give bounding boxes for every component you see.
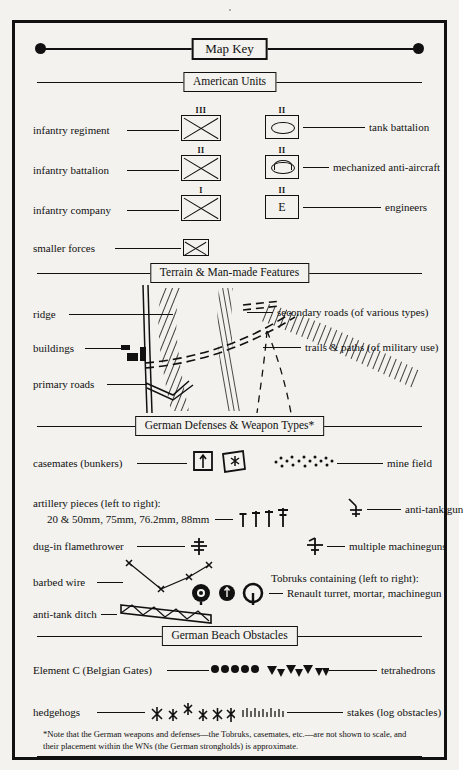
leader-line: [269, 593, 283, 594]
label-artillery-line1: artillery pieces (left to right):: [33, 496, 161, 510]
echelon-marker: III: [196, 107, 207, 115]
label-primary-roads: primary roads: [33, 377, 94, 391]
building-block: [140, 347, 146, 361]
echelon-marker: I: [199, 187, 203, 195]
stakes-symbols: [241, 705, 287, 721]
leader-line: [97, 712, 145, 713]
leader-line: [303, 127, 365, 128]
belgian-gate-dot: [211, 665, 219, 673]
leader-line: [303, 207, 381, 208]
infantry-cross-icon: [182, 156, 220, 180]
trail-path-b: [267, 331, 291, 413]
header-dot-right: [413, 43, 424, 54]
hedgehog-svg: [149, 701, 235, 725]
label-tetrahedrons: tetrahedrons: [381, 663, 435, 677]
label-machineguns: multiple machineguns: [349, 539, 446, 553]
infantry-cross-icon: [182, 116, 220, 140]
symbol-tank-battalion: II: [265, 115, 299, 139]
machineguns-svg: [305, 535, 325, 557]
leader-line: [327, 546, 345, 547]
label-tobruks-line1: Tobruks containing (left to right):: [271, 571, 419, 585]
label-buildings: buildings: [33, 341, 74, 355]
label-casemates: casemates (bunkers): [33, 456, 123, 470]
engineer-letter-icon: E: [266, 196, 298, 218]
footnote-text: *Note that the German weapons and defens…: [43, 729, 420, 752]
anti-tank-ditch-symbol: [119, 599, 215, 625]
label-infantry-company: infantry company: [33, 203, 111, 217]
leader-line: [115, 248, 181, 249]
building-block: [121, 345, 130, 350]
section-header-american-units: American Units: [15, 72, 444, 92]
leader-line: [127, 130, 179, 131]
hedgehog-symbols: [149, 701, 235, 725]
mine-field-svg: [273, 453, 335, 471]
leader-line: [127, 170, 179, 171]
label-infantry-battalion: infantry battalion: [33, 163, 109, 177]
artillery-svg: [237, 505, 293, 529]
casemate-symbols: [191, 448, 247, 476]
anti-tank-ditch-svg: [119, 599, 215, 625]
secondary-road-spur-a: [243, 301, 281, 305]
section-header-beach-obstacles: German Beach Obstacles: [15, 626, 444, 646]
section-title-map-key: Map Key: [191, 38, 268, 60]
stakes-svg: [241, 705, 287, 721]
echelon-marker: II: [278, 147, 285, 155]
label-mine-field: mine field: [387, 456, 432, 470]
leader-line: [167, 670, 209, 671]
tetrahedron-svg: [267, 663, 329, 679]
leader-line: [97, 582, 123, 583]
tank-oval-icon: [271, 122, 295, 135]
label-artillery-line2: 20 & 50mm, 75mm, 76.2mm, 88mm: [47, 512, 209, 526]
machineguns-symbol: [305, 535, 325, 557]
infantry-cross-icon: [182, 196, 220, 220]
belgian-gate-dot: [241, 665, 249, 673]
label-tobruks-line2: Renault turret, mortar, machinegun: [287, 586, 441, 600]
anti-tank-gun-symbol: [345, 497, 367, 519]
label-flamethrower: dug-in flamethrower: [33, 539, 124, 553]
label-engineers: engineers: [385, 200, 427, 214]
symbol-infantry-regiment: III: [181, 115, 221, 141]
label-stakes: stakes (log obstacles): [347, 705, 441, 719]
symbol-smaller-forces: [183, 239, 209, 256]
flamethrower-svg: [189, 535, 209, 557]
element-c-symbols: [211, 665, 259, 673]
artillery-symbols: [237, 505, 293, 529]
belgian-gate-dot: [231, 665, 239, 673]
ridge-band-left: [158, 288, 189, 411]
leader-line: [329, 670, 377, 671]
label-anti-tank-ditch: anti-tank ditch: [33, 607, 97, 621]
tetrahedron-symbols: [267, 663, 329, 679]
echelon-marker: II: [278, 187, 285, 195]
flamethrower-symbol: [189, 535, 209, 557]
label-ridge: ridge: [33, 307, 56, 321]
section-header-map-key: Map Key: [15, 38, 444, 58]
leader-line: [137, 546, 185, 547]
section-header-terrain: Terrain & Man-made Features: [15, 263, 444, 283]
label-infantry-regiment: infantry regiment: [33, 123, 110, 137]
infantry-cross-icon: [184, 240, 208, 255]
casemate-star: [231, 456, 239, 466]
leader-line: [287, 712, 343, 713]
leader-line: [107, 384, 147, 385]
label-mechanized-anti-aircraft: mechanized anti-aircraft: [333, 160, 440, 174]
casemate-svg: [191, 448, 247, 476]
leader-line: [303, 167, 329, 168]
label-secondary-roads: secondary roads (of various types): [277, 305, 429, 319]
anti-tank-gun-svg: [345, 497, 367, 519]
leader-line: [247, 312, 273, 313]
footnote-rule: [37, 756, 422, 757]
section-header-german-defenses: German Defenses & Weapon Types*: [15, 416, 444, 436]
label-anti-tank-gun: anti-tank gun: [405, 502, 463, 516]
belgian-gate-dot: [221, 665, 229, 673]
leader-line: [137, 463, 187, 464]
label-element-c: Element C (Belgian Gates): [33, 663, 152, 677]
leader-line: [85, 348, 121, 349]
primary-road-edge-b: [148, 285, 152, 413]
label-trails-paths: trails & paths (of military use): [305, 340, 439, 354]
symbol-infantry-company: I: [181, 195, 221, 221]
trail-path-a: [257, 331, 267, 413]
leader-line: [367, 509, 401, 510]
leader-line: [101, 614, 117, 615]
leader-line: [69, 314, 173, 315]
symbol-engineers: II E: [265, 195, 299, 219]
